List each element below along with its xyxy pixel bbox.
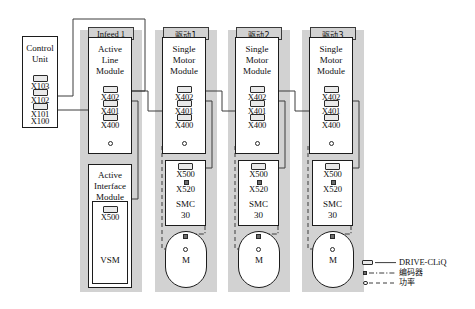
- port-x400[interactable]: X400: [163, 114, 205, 130]
- smc30-box-drive2[interactable]: X500 X520 SMC 30: [238, 160, 279, 226]
- motor-module-title-line3: Module: [310, 66, 352, 77]
- motor-module-title-line3: Module: [236, 66, 278, 77]
- active-line-module-title-line2: Line: [89, 55, 131, 66]
- single-motor-module-box-drive3[interactable]: Single Motor Module X402 X401 X400: [309, 37, 353, 154]
- motor-label: M: [239, 255, 279, 266]
- motor-module-title-line2: Motor: [310, 55, 352, 66]
- diagram-canvas: Infeed 1 驱动1 驱动2 驱动3 Control Unit X103 X…: [0, 0, 475, 309]
- smc30-box-drive3[interactable]: X500 X520 SMC 30: [312, 160, 353, 226]
- vsm-label: VSM: [93, 255, 127, 266]
- motor-module-title-line3: Module: [163, 66, 205, 77]
- single-motor-module-box-drive1[interactable]: Single Motor Module X402 X401 X400: [162, 37, 206, 154]
- smc-label-line1: SMC: [166, 199, 205, 210]
- power-connector-icon: [255, 141, 260, 146]
- active-interface-module-title-line2: Interface: [89, 181, 131, 192]
- smc-label-line2: 30: [313, 210, 352, 221]
- motor-module-title-line2: Motor: [163, 55, 205, 66]
- encoder-connector-icon: [330, 234, 335, 239]
- active-interface-module-title-line1: Active: [89, 170, 131, 181]
- smc-label-line1: SMC: [313, 199, 352, 210]
- power-connector-icon: [256, 247, 261, 252]
- port-x520-label: X520: [239, 184, 278, 195]
- port-x520-label: X520: [313, 184, 352, 195]
- port-x100[interactable]: X100: [23, 117, 57, 126]
- port-x500[interactable]: X500: [239, 163, 278, 179]
- motor-module-title-line2: Motor: [236, 55, 278, 66]
- port-x400[interactable]: X400: [310, 114, 352, 130]
- port-x500[interactable]: X500: [313, 163, 352, 179]
- motor-drive3[interactable]: M: [312, 231, 354, 288]
- power-connector-icon: [108, 141, 113, 146]
- drive-cliq-plug-icon: [362, 260, 373, 265]
- single-motor-module-box-drive2[interactable]: Single Motor Module X402 X401 X400: [235, 37, 279, 154]
- legend-label-power: 功率: [399, 277, 415, 288]
- control-unit-title-line1: Control: [23, 43, 57, 54]
- smc30-box-drive1[interactable]: X500 X520 SMC 30: [165, 160, 206, 226]
- legend: DRIVE-CLiQ 编码器 功率: [362, 258, 472, 292]
- power-connector-icon: [183, 247, 188, 252]
- encoder-connector-icon: [363, 271, 367, 275]
- encoder-connector-icon: [256, 234, 261, 239]
- motor-drive1[interactable]: M: [165, 231, 207, 288]
- control-unit-title-line2: Unit: [23, 54, 57, 65]
- encoder-connector-icon: [183, 234, 188, 239]
- legend-item-power: 功率: [362, 278, 472, 289]
- smc-label-line2: 30: [239, 210, 278, 221]
- active-line-module-title-line1: Active: [89, 44, 131, 55]
- vsm-box[interactable]: X500 VSM: [92, 201, 128, 284]
- motor-label: M: [166, 255, 206, 266]
- power-connector-icon: [329, 141, 334, 146]
- motor-module-title-line1: Single: [236, 44, 278, 55]
- port-x500[interactable]: X500: [166, 163, 205, 179]
- port-x520-label: X520: [166, 184, 205, 195]
- port-x400[interactable]: X400: [89, 114, 131, 130]
- active-line-module-box[interactable]: Active Line Module X402 X401 X400: [88, 37, 132, 154]
- smc-label-line1: SMC: [239, 199, 278, 210]
- port-x500[interactable]: X500: [93, 206, 127, 222]
- motor-module-title-line1: Single: [310, 44, 352, 55]
- port-x400[interactable]: X400: [236, 114, 278, 130]
- power-connector-icon: [182, 141, 187, 146]
- control-unit-box[interactable]: Control Unit X103 X102 X101 X100: [22, 36, 58, 128]
- motor-label: M: [313, 255, 353, 266]
- motor-module-title-line1: Single: [163, 44, 205, 55]
- smc-label-line2: 30: [166, 210, 205, 221]
- motor-drive2[interactable]: M: [238, 231, 280, 288]
- power-connector-icon: [330, 247, 335, 252]
- power-connector-icon: [363, 281, 368, 286]
- active-line-module-title-line3: Module: [89, 66, 131, 77]
